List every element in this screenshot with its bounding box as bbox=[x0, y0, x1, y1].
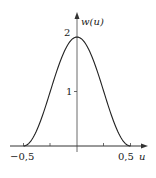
x-tick-label-min: −0,5 bbox=[10, 151, 34, 162]
chart: w(u) 2 1 −0,5 0,5 u bbox=[0, 0, 156, 178]
x-tick-label-max: 0,5 bbox=[118, 151, 134, 162]
y-axis-arrow-icon bbox=[75, 12, 80, 19]
x-axis-arrow-icon bbox=[141, 144, 148, 149]
y-tick-label-2: 2 bbox=[64, 27, 70, 38]
y-tick-label-1: 1 bbox=[66, 86, 72, 97]
y-axis-label: w(u) bbox=[81, 16, 104, 27]
x-axis-label: u bbox=[139, 151, 145, 162]
